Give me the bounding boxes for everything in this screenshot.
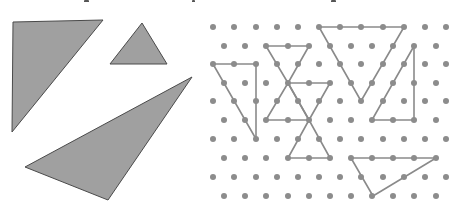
grid-dot: [274, 98, 280, 104]
grid-dot: [295, 24, 301, 30]
grid-dot: [411, 193, 417, 199]
grid-dot: [306, 117, 312, 123]
grid-dot: [369, 80, 375, 86]
grid-dot: [327, 193, 333, 199]
grid-dot: [337, 174, 343, 180]
grid-dot: [316, 61, 322, 67]
grid-dot: [210, 24, 216, 30]
grid-dot: [221, 43, 227, 49]
grid-dot: [443, 174, 449, 180]
grid-dot: [358, 136, 364, 142]
grid-dot: [443, 98, 449, 104]
grid-dot: [221, 80, 227, 86]
grid-dot: [348, 117, 354, 123]
grid-dot: [221, 155, 227, 161]
grid-dot: [411, 43, 417, 49]
grid-dot: [358, 174, 364, 180]
grid-dot: [390, 80, 396, 86]
grid-dot: [306, 155, 312, 161]
grid-dot: [242, 80, 248, 86]
grid-dot: [316, 174, 322, 180]
grid-dot: [316, 24, 322, 30]
grid-dot: [210, 61, 216, 67]
grid-dot: [231, 61, 237, 67]
right-triangle-large: [12, 20, 103, 132]
grid-triangle-hourglass-middle: [266, 83, 309, 120]
grid-dot: [443, 61, 449, 67]
grid-dot: [253, 61, 259, 67]
grid-dot: [390, 43, 396, 49]
grid-dot: [242, 43, 248, 49]
grid-dot: [327, 43, 333, 49]
grid-triangle-hourglass-right: [288, 83, 330, 120]
grid-dot: [380, 174, 386, 180]
grid-dot: [422, 136, 428, 142]
grid-dot: [369, 193, 375, 199]
grid-dot: [422, 174, 428, 180]
grid-dot: [253, 174, 259, 180]
grid-dot: [263, 43, 269, 49]
grid-dot: [316, 98, 322, 104]
grid-dot: [380, 136, 386, 142]
grid-dot: [411, 155, 417, 161]
solid-triangles-panel: [12, 20, 192, 200]
grid-dot: [274, 136, 280, 142]
grid-dot: [274, 24, 280, 30]
grid-dot: [285, 43, 291, 49]
grid-dot: [433, 43, 439, 49]
grid-dot: [380, 61, 386, 67]
grid-triangle-hourglass-top: [266, 46, 309, 83]
grid-dot: [401, 136, 407, 142]
grid-dot: [348, 155, 354, 161]
grid-dot: [358, 98, 364, 104]
grid-dot: [411, 117, 417, 123]
grid-dot: [231, 98, 237, 104]
grid-dot: [306, 43, 312, 49]
dot-grid-panel: [210, 24, 449, 199]
grid-dot: [295, 174, 301, 180]
grid-dot: [401, 174, 407, 180]
grid-dot: [411, 80, 417, 86]
figure: [0, 0, 456, 219]
grid-dot: [390, 117, 396, 123]
grid-dot: [443, 136, 449, 142]
grid-dot: [210, 136, 216, 142]
grid-dot: [422, 61, 428, 67]
grid-dot: [316, 136, 322, 142]
grid-dot: [337, 61, 343, 67]
grid-dot: [285, 117, 291, 123]
grid-dot: [210, 174, 216, 180]
grid-dot: [380, 98, 386, 104]
grid-dot: [358, 61, 364, 67]
grid-dot: [422, 98, 428, 104]
grid-dot: [380, 24, 386, 30]
grid-dot: [433, 117, 439, 123]
grid-dot: [242, 117, 248, 123]
obtuse-triangle: [25, 77, 192, 200]
grid-dot: [348, 43, 354, 49]
grid-dot: [433, 193, 439, 199]
grid-dot: [263, 155, 269, 161]
grid-dot: [443, 24, 449, 30]
grid-dot: [263, 80, 269, 86]
grid-triangles: [213, 27, 436, 196]
grid-dot: [242, 193, 248, 199]
grid-dot: [390, 155, 396, 161]
grid-dot: [295, 61, 301, 67]
grid-dot: [348, 193, 354, 199]
grid-dot: [327, 155, 333, 161]
grid-dot: [390, 193, 396, 199]
grid-dot: [231, 24, 237, 30]
grid-dot: [306, 193, 312, 199]
grid-dot: [285, 155, 291, 161]
grid-dot: [221, 117, 227, 123]
grid-dot: [253, 98, 259, 104]
grid-dot: [274, 174, 280, 180]
grid-dot: [221, 193, 227, 199]
grid-triangle-hourglass-bottom: [288, 120, 330, 158]
grid-dots: [210, 24, 449, 199]
grid-dot: [253, 136, 259, 142]
grid-dot: [337, 98, 343, 104]
grid-dot: [274, 61, 280, 67]
grid-dot: [231, 136, 237, 142]
